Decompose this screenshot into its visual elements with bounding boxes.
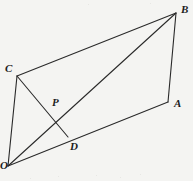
vertex-label-C: C bbox=[5, 63, 12, 74]
segment-diagonal-O-B bbox=[8, 13, 176, 166]
segments-layer bbox=[8, 13, 176, 166]
geometry-figure: OCBADP bbox=[0, 0, 193, 181]
segment-side-O-C bbox=[8, 76, 17, 166]
vertex-label-P: P bbox=[52, 97, 59, 108]
segment-cevian-C-D bbox=[17, 76, 68, 137]
vertex-label-D: D bbox=[70, 141, 78, 152]
vertex-label-O: O bbox=[0, 160, 8, 171]
vertex-label-B: B bbox=[181, 4, 188, 15]
vertex-label-A: A bbox=[174, 98, 181, 109]
scan-speck bbox=[30, 178, 31, 179]
figure-canvas bbox=[0, 0, 193, 181]
segment-side-B-A bbox=[168, 13, 176, 102]
segment-side-C-B bbox=[17, 13, 176, 76]
segment-side-A-O bbox=[8, 102, 168, 166]
